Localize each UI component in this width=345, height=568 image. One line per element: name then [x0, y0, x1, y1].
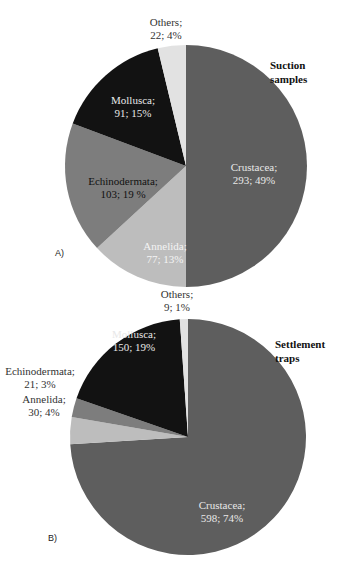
chart-title: Settlementtraps [275, 337, 325, 365]
slice-label-annelida: Annelida;30; 4% [22, 393, 65, 419]
panel-label: B) [48, 533, 57, 543]
pie-chart-suction-samples: Suction samples A) Crustacea;293; 49%Ann… [0, 0, 345, 290]
slice-label-mollusca: Mollusca;91; 15% [111, 94, 155, 120]
slice-label-annelida: Annelida;77; 13% [143, 240, 186, 266]
slice-label-mollusca: Mollusca;150; 19% [112, 328, 156, 354]
pie-chart-settlement-traps: Settlementtraps B) Crustacea;598; 74%Ann… [0, 290, 345, 568]
slice-label-crustacea: Crustacea;293; 49% [231, 161, 277, 187]
slice-label-others: Others;9; 1% [161, 288, 193, 314]
slice-label-echinodermata: Echinodermata;21; 3% [5, 365, 75, 391]
pie-b-svg [0, 290, 345, 568]
slice-label-others: Others;22; 4% [150, 16, 182, 42]
chart-title: Suction samples [270, 58, 345, 86]
slice-label-echinodermata: Echinodermata;103; 19 % [88, 175, 158, 201]
panel-label: A) [55, 248, 64, 258]
slice-label-crustacea: Crustacea;598; 74% [199, 499, 245, 525]
